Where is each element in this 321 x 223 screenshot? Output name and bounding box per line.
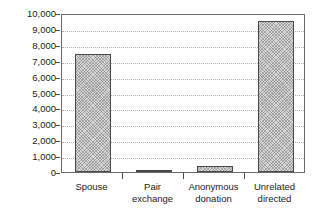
x-axis-category-label: Pair exchange — [122, 181, 183, 204]
x-axis-category-label: Unrelated directed — [244, 181, 305, 204]
y-axis-tick-mark — [55, 46, 60, 47]
bar — [258, 21, 294, 172]
x-axis-category-label: Anonymous donation — [183, 181, 244, 204]
x-axis-tick-mark — [122, 173, 123, 179]
x-axis-tick-mark — [183, 173, 184, 179]
y-axis-tick-label: 3,000 — [0, 121, 56, 131]
y-axis-tick-mark — [55, 30, 60, 31]
y-axis-tick-mark — [55, 62, 60, 63]
y-axis-tick-mark — [55, 78, 60, 79]
y-axis-tick-label: 8,000 — [0, 41, 56, 51]
bar-chart: 01,0002,0003,0004,0005,0006,0007,0008,00… — [0, 0, 321, 223]
y-axis-tick-label: 1,000 — [0, 152, 56, 162]
bar — [136, 170, 172, 172]
y-axis-tick-label: 7,000 — [0, 57, 56, 67]
y-axis-tick-labels: 01,0002,0003,0004,0005,0006,0007,0008,00… — [0, 14, 56, 173]
x-axis-tick-mark — [244, 173, 245, 179]
y-axis-tick-mark — [55, 173, 60, 174]
y-axis-tick-label: 9,000 — [0, 25, 56, 35]
x-axis-category-label: Spouse — [61, 181, 122, 193]
y-axis-tick-mark — [55, 109, 60, 110]
y-axis-tick-label: 2,000 — [0, 136, 56, 146]
y-axis-tick-label: 6,000 — [0, 73, 56, 83]
y-axis-tick-label: 4,000 — [0, 105, 56, 115]
bar — [197, 166, 233, 172]
y-axis-tick-mark — [55, 157, 60, 158]
y-axis-tick-mark — [55, 125, 60, 126]
y-axis-tick-label: 0 — [0, 168, 56, 178]
y-axis-tick-label: 5,000 — [0, 89, 56, 99]
plot-area — [61, 14, 305, 173]
y-axis-tick-mark — [55, 94, 60, 95]
y-axis-tick-label: 10,000 — [0, 9, 56, 19]
y-axis-tick-mark — [55, 14, 60, 15]
y-axis-tick-mark — [55, 141, 60, 142]
bar — [75, 54, 111, 172]
